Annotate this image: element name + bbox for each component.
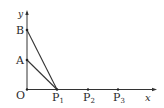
label-p2: P2: [83, 91, 95, 105]
label-p1: P1: [52, 91, 64, 105]
x-axis-arrow-icon: [152, 88, 157, 91]
point-o: [26, 88, 28, 90]
label-o: O: [16, 89, 25, 102]
label-b: B: [16, 24, 24, 37]
segments: [27, 30, 57, 90]
point-b: [26, 29, 29, 32]
points: [26, 29, 120, 91]
y-axis-label: y: [17, 9, 24, 19]
label-p3: P3: [113, 91, 125, 105]
axes: [27, 12, 155, 90]
label-a: A: [15, 54, 25, 67]
segment-b-p1: [27, 30, 57, 90]
x-axis-label: x: [145, 92, 151, 103]
coordinate-diagram: y x B A O P1 P2 P3: [0, 0, 164, 108]
y-axis-arrow-icon: [25, 10, 28, 15]
segment-a-p1: [27, 60, 57, 90]
point-a: [26, 59, 29, 62]
